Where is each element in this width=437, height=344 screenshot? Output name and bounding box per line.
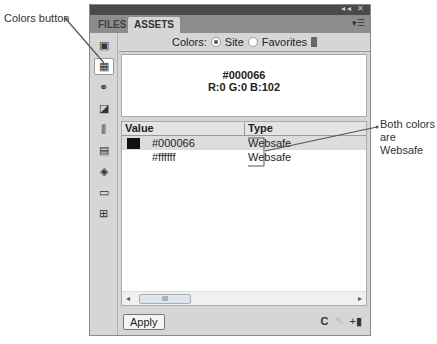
callout-lines bbox=[0, 0, 437, 344]
